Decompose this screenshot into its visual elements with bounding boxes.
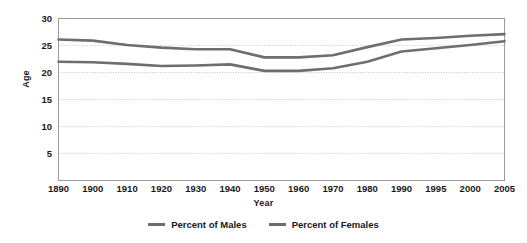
- y-tick-label: 20: [16, 68, 52, 78]
- y-tick-label: 30: [16, 14, 52, 24]
- legend-swatch-icon: [148, 223, 165, 226]
- legend-item[interactable]: Percent of Females: [269, 219, 379, 230]
- y-tick-label: 25: [16, 41, 52, 51]
- plot-border: [59, 19, 505, 181]
- legend-label: Percent of Males: [171, 219, 247, 230]
- y-tick-label: 10: [16, 122, 52, 132]
- series-lines: [59, 34, 505, 71]
- y-tick-label: 5: [16, 149, 52, 159]
- y-tick-label: 15: [16, 95, 52, 105]
- line-chart: Age 30252015105 189019001910192019301940…: [0, 0, 527, 243]
- legend-item[interactable]: Percent of Males: [148, 219, 247, 230]
- series-line-0: [59, 34, 505, 57]
- x-tick-label: 2005: [485, 183, 525, 194]
- chart-legend: Percent of MalesPercent of Females: [0, 219, 527, 230]
- legend-swatch-icon: [269, 223, 286, 226]
- legend-label: Percent of Females: [292, 219, 379, 230]
- x-axis-title: Year: [0, 198, 527, 208]
